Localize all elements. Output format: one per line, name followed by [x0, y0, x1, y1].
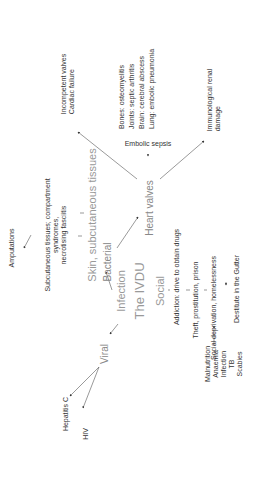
- bacterial-label: Bacterial: [102, 243, 114, 282]
- outcome-scabies: Scabies: [236, 346, 244, 382]
- hiv-label: HIV: [82, 428, 90, 440]
- subcutaneous-line-1: Subcutaneous tissues; compartment: [44, 178, 52, 291]
- renal-line-1: Immunological renal: [206, 69, 214, 132]
- viral-label: Viral: [99, 344, 111, 364]
- theft-label: Theft, prostitution, prison: [192, 261, 200, 338]
- cardiac-failure: Cardiac failure: [68, 54, 76, 114]
- skin-subcutaneous-label: Skin, subcutaneous tissues: [86, 148, 99, 281]
- renal-damage: Immunological renal damage: [206, 69, 222, 132]
- outcome-anaemia: Anaemia: [212, 346, 220, 382]
- embolic-site-joints: Joints: septic arthritis: [128, 49, 136, 129]
- deprivation-label: Social deprivation, homelessness: [210, 256, 218, 360]
- social-label: Social: [154, 276, 167, 306]
- subcutaneous-line-3: necrotising fasciitis: [60, 178, 68, 291]
- hepatitis-c-label: Hepatitis C: [62, 397, 70, 431]
- embolic-sites: Bones: osteomyelitis Joints: septic arth…: [116, 49, 158, 129]
- valve-outcomes: Incompetent valves Cardiac failure: [60, 54, 76, 114]
- infection-label: Infection: [115, 270, 128, 312]
- renal-line-2: damage: [214, 69, 222, 132]
- embolic-sepsis-label: Embolic sepsis: [125, 140, 172, 147]
- incompetent-valves: Incompetent valves: [60, 54, 68, 114]
- outcome-tb: TB: [228, 346, 236, 382]
- ivdu-label: The IVDU: [133, 262, 148, 319]
- social-outcomes: Malnutrition Anaemia Infection TB Scabie…: [204, 346, 244, 382]
- embolic-site-lung: Lung: embolic pneumonia: [148, 49, 156, 129]
- gutter-label: Destitute in the Gutter: [233, 255, 241, 323]
- ivdu-diagram: Amputations Subcutaneous tissues; compar…: [0, 0, 253, 494]
- heart-valves-label: Heart valves: [144, 180, 156, 236]
- outcome-malnutrition: Malnutrition: [204, 346, 212, 382]
- addiction-label: Addiction: drive to obtain drugs: [173, 229, 181, 325]
- amputations-label: Amputations: [8, 229, 16, 268]
- outcome-infection: Infection: [220, 346, 228, 382]
- embolic-site-bones: Bones: osteomyelitis: [118, 49, 126, 129]
- embolic-site-brain: Brain: cerebral abscess: [138, 49, 146, 129]
- subcutaneous-complication: Subcutaneous tissues; compartment syndro…: [44, 178, 68, 291]
- subcutaneous-line-2: syndromes,: [52, 178, 60, 291]
